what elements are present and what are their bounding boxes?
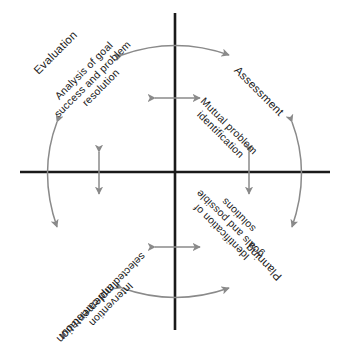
process-cycle-diagram: Evaluation Analysis of goal success and … — [0, 0, 349, 342]
outer-arc-right — [292, 122, 302, 227]
outer-arc-left — [48, 122, 58, 227]
